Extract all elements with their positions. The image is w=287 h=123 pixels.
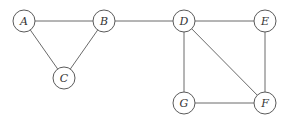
edges xyxy=(24,21,265,103)
node-label: F xyxy=(260,97,269,110)
node-label: D xyxy=(179,15,189,28)
node-label: G xyxy=(180,97,189,110)
node-label: E xyxy=(260,15,269,28)
node-b: B xyxy=(93,10,115,32)
node-label: B xyxy=(99,15,108,28)
node-d: D xyxy=(173,10,195,32)
node-e: E xyxy=(254,10,276,32)
node-c: C xyxy=(53,67,75,89)
node-label: C xyxy=(60,72,69,85)
node-label: A xyxy=(19,15,28,28)
edge-d-f xyxy=(184,21,265,103)
node-a: A xyxy=(13,10,35,32)
graph-diagram: ABCDEFG xyxy=(0,0,287,123)
node-f: F xyxy=(254,92,276,114)
node-g: G xyxy=(173,92,195,114)
